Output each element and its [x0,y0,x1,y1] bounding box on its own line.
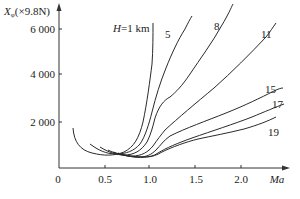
y-tick-label-4000: 4 000 [30,68,55,80]
y-axis-arrow-icon [57,3,62,11]
curve-h15km [113,88,283,157]
x-axis-title: Ma [269,173,285,185]
curve-label-11: 11 [261,28,272,40]
y-axis-title: Xφ(×9.8N) [3,5,50,19]
y-tick-label-6000: 6 000 [30,23,55,35]
y-tick-label-2000: 2 000 [30,116,55,128]
x-tick-label-2.0: 2.0 [234,173,248,185]
curve-label-h1km: H=1 km [112,22,150,34]
curve-h1km [73,23,153,155]
x-tick-label-1.5: 1.5 [189,173,203,185]
x-tick-label-0: 0 [55,173,61,185]
curve-label-8: 8 [214,20,220,32]
x-axis-arrow-icon [282,166,290,171]
curve-label-5: 5 [165,28,171,40]
curve-label-17: 17 [272,98,284,110]
curve-label-15: 15 [265,83,277,95]
curve-h11km [108,23,276,156]
y-axis-title-unit: (×9.8N) [15,5,51,18]
x-tick-label-1.0: 1.0 [143,173,157,185]
thrust-mach-chart: 6 000 4 000 2 000 0 0.5 1.0 1.5 2.0 Xφ(×… [0,0,300,199]
x-tick-label-0.5: 0.5 [98,173,112,185]
curve-h17km [118,104,284,157]
curve-label-19: 19 [268,126,280,138]
